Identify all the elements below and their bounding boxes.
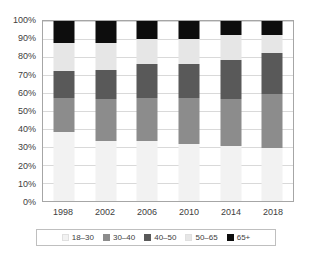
bar-segment[interactable] [137,21,158,39]
bar-slot [210,21,252,201]
bar-segment[interactable] [220,35,241,59]
bar-segment[interactable] [178,98,199,144]
stacked-bar[interactable] [178,21,199,201]
bar-slot [85,21,127,201]
bar-segment[interactable] [137,141,158,201]
x-axis-tick-label: 2006 [126,204,168,220]
legend-swatch-icon [103,234,110,241]
bar-segment[interactable] [95,70,116,100]
bar-segment[interactable] [53,21,74,43]
legend-item-label: 18–30 [72,234,94,242]
legend-swatch-icon [144,234,151,241]
legend-swatch-icon [227,234,234,241]
bar-segment[interactable] [53,43,74,71]
y-axis-tick-label: 30% [18,143,36,152]
bar-segment[interactable] [262,94,283,148]
bar-segment[interactable] [53,71,74,98]
bar-segment[interactable] [178,64,199,98]
plot-area-wrapper [42,20,294,202]
y-axis-tick-label: 70% [18,70,36,79]
y-axis-tick-label: 40% [18,125,36,134]
bar-segment[interactable] [178,21,199,39]
bar-segment[interactable] [262,35,283,53]
stacked-bar[interactable] [53,21,74,201]
bar-segment[interactable] [178,144,199,201]
legend-item-label: 50–65 [195,234,217,242]
bar-segment[interactable] [137,64,158,97]
y-axis-tick-label: 100% [13,16,36,25]
legend-item[interactable]: 40–50 [144,234,176,242]
y-axis-tick-label: 0% [23,198,36,207]
bar-segment[interactable] [178,39,199,64]
bar-segment[interactable] [53,132,74,201]
stacked-bar-chart: 0%10%20%30%40%50%60%70%80%90%100% 199820… [0,0,311,261]
legend-item[interactable]: 50–65 [185,234,217,242]
bar-segment[interactable] [137,98,158,141]
bar-segment[interactable] [220,60,241,100]
x-axis-tick-label: 2002 [84,204,126,220]
chart-legend: 18–3030–4040–5050–6565+ [36,229,276,246]
stacked-bar[interactable] [220,21,241,201]
bar-slot [126,21,168,201]
y-axis-tick-label: 20% [18,161,36,170]
y-axis-tick-label: 90% [18,34,36,43]
bar-slot [251,21,293,201]
bar-segment[interactable] [262,21,283,35]
legend-swatch-icon [62,234,69,241]
stacked-bar[interactable] [137,21,158,201]
stacked-bar[interactable] [95,21,116,201]
legend-item-label: 30–40 [113,234,135,242]
bar-segment[interactable] [95,99,116,140]
bar-segment[interactable] [220,146,241,201]
legend-item-label: 40–50 [154,234,176,242]
legend-item-label: 65+ [237,234,251,242]
bar-segment[interactable] [262,148,283,201]
stacked-bar[interactable] [262,21,283,201]
x-axis: 199820022006201020142018 [42,204,294,220]
bar-segment[interactable] [220,99,241,146]
plot-area [42,20,294,202]
x-axis-tick-label: 2010 [168,204,210,220]
y-axis-tick-label: 10% [18,179,36,188]
bar-segment[interactable] [137,39,158,64]
bar-segment[interactable] [53,98,74,132]
bar-segment[interactable] [95,21,116,43]
y-axis-tick-label: 80% [18,52,36,61]
x-axis-tick-label: 2018 [252,204,294,220]
x-axis-tick-label: 2014 [210,204,252,220]
bar-segment[interactable] [95,43,116,70]
y-axis-tick-label: 50% [18,107,36,116]
bar-slot [168,21,210,201]
x-axis-tick-label: 1998 [42,204,84,220]
y-axis-tick-label: 60% [18,88,36,97]
bar-segment[interactable] [262,53,283,94]
bar-segment[interactable] [95,141,116,201]
bar-segment[interactable] [220,21,241,35]
y-axis: 0%10%20%30%40%50%60%70%80%90%100% [0,20,40,202]
legend-item[interactable]: 65+ [227,234,251,242]
gridline [43,201,293,202]
legend-swatch-icon [185,234,192,241]
bar-slot [43,21,85,201]
legend-item[interactable]: 18–30 [62,234,94,242]
bar-series-group [43,21,293,201]
legend-item[interactable]: 30–40 [103,234,135,242]
